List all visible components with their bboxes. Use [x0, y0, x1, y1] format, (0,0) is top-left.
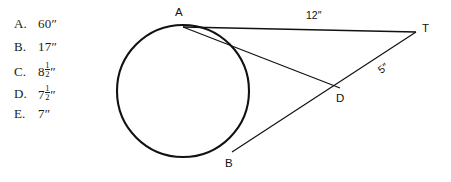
measure-label-tangent: 12″: [306, 9, 321, 21]
answer-choice-a-key: A.: [14, 16, 38, 32]
answer-choice-e-value: 7″: [38, 106, 50, 122]
fraction-one-half: 12: [45, 61, 49, 78]
diagram-canvas: [108, 0, 451, 182]
answer-choice-e[interactable]: E. 7″: [14, 106, 110, 129]
point-label-a: A: [175, 6, 183, 18]
answer-choice-list: A. 60″ B. 17″ C. 812″ D. 712″ E. 7″: [14, 16, 110, 129]
point-label-t: T: [422, 22, 429, 34]
secant-line-b-t: [232, 32, 416, 152]
chord-line-a-d: [183, 27, 340, 88]
answer-choice-a-value: 60″: [38, 16, 57, 32]
geometry-question-figure: A. 60″ B. 17″ C. 812″ D. 712″ E. 7″ A: [0, 0, 451, 182]
fraction-one-half: 12: [45, 84, 49, 101]
answer-choice-c[interactable]: C. 812″: [14, 61, 110, 84]
answer-choice-b[interactable]: B. 17″: [14, 39, 110, 62]
circle-tangent-secant-diagram: A B D T 12″ 5″: [108, 0, 451, 182]
answer-choice-d[interactable]: D. 712″: [14, 84, 110, 107]
answer-choice-a[interactable]: A. 60″: [14, 16, 110, 39]
answer-choice-c-value: 812″: [38, 61, 56, 80]
answer-choice-d-value: 712″: [38, 84, 56, 103]
point-label-b: B: [225, 157, 233, 169]
tangent-line-a-t: [183, 27, 416, 32]
answer-choice-d-key: D.: [14, 86, 38, 102]
answer-choice-e-key: E.: [14, 106, 38, 122]
point-label-d: D: [336, 92, 344, 104]
answer-choice-c-key: C.: [14, 64, 38, 80]
answer-choice-b-value: 17″: [38, 39, 57, 55]
answer-choice-b-key: B.: [14, 39, 38, 55]
